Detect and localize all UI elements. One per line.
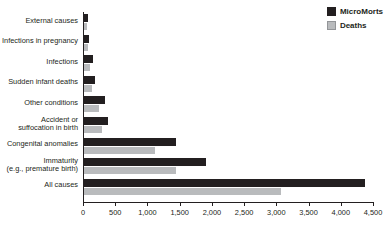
category-label: All causes: [0, 181, 78, 189]
chart-row: Congenital anomalies: [83, 136, 381, 157]
bar-deaths: [84, 44, 88, 51]
chart-row: Accident or suffocation in birth: [83, 115, 381, 136]
chart-row: External causes: [83, 12, 381, 33]
bar-group: [84, 117, 108, 133]
bar-group: [84, 55, 93, 71]
tick-label: 3,000: [267, 208, 286, 217]
tick-mark: [212, 202, 213, 206]
chart-row: Infections in pregnancy: [83, 33, 381, 54]
bar-chart: MicroMorts Deaths External causesInfecti…: [0, 0, 387, 234]
tick-mark: [341, 202, 342, 206]
category-label: Immaturity (e.g., premature birth): [0, 157, 78, 174]
bar-group: [84, 96, 105, 112]
category-label: External causes: [0, 17, 78, 25]
tick-label: 4,000: [332, 208, 351, 217]
bar-deaths: [84, 126, 102, 133]
category-label: Other conditions: [0, 99, 78, 107]
tick-label: 3,500: [299, 208, 318, 217]
bar-micromorts: [84, 117, 108, 125]
category-label: Sudden infant deaths: [0, 78, 78, 86]
category-label: Accident or suffocation in birth: [0, 116, 78, 133]
bar-group: [84, 179, 365, 195]
bar-deaths: [84, 167, 176, 174]
chart-title: [8, 0, 379, 2]
tick-mark: [115, 202, 116, 206]
category-label: Infections: [0, 58, 78, 66]
bar-micromorts: [84, 158, 206, 166]
tick-mark: [244, 202, 245, 206]
bar-group: [84, 14, 88, 30]
tick-mark: [309, 202, 310, 206]
chart-row: Immaturity (e.g., premature birth): [83, 156, 381, 177]
tick-mark: [180, 202, 181, 206]
bar-micromorts: [84, 35, 89, 43]
bar-deaths: [84, 188, 281, 195]
plot-area: External causesInfections in pregnancyIn…: [83, 12, 381, 198]
tick-label: 2,000: [203, 208, 222, 217]
bar-micromorts: [84, 96, 105, 104]
bar-micromorts: [84, 179, 365, 187]
tick-label: 500: [109, 208, 121, 217]
bar-deaths: [84, 105, 99, 112]
tick-mark: [147, 202, 148, 206]
bar-deaths: [84, 147, 155, 154]
bar-micromorts: [84, 55, 93, 63]
category-label: Infections in pregnancy: [0, 37, 78, 45]
tick-mark: [373, 202, 374, 206]
bar-micromorts: [84, 138, 176, 146]
bar-group: [84, 76, 95, 92]
chart-row: Other conditions: [83, 94, 381, 115]
chart-row: Infections: [83, 53, 381, 74]
bar-micromorts: [84, 14, 88, 22]
tick-label: 1,000: [138, 208, 157, 217]
x-axis-ticks: 05001,0001,5002,0002,5003,0003,5004,0004…: [83, 202, 381, 234]
bar-deaths: [84, 64, 90, 71]
tick-label: 4,500: [364, 208, 383, 217]
chart-row: Sudden infant deaths: [83, 74, 381, 95]
tick-mark: [83, 202, 84, 206]
chart-row: All causes: [83, 177, 381, 198]
tick-label: 1,500: [170, 208, 189, 217]
bar-group: [84, 158, 206, 174]
bar-group: [84, 138, 176, 154]
category-label: Congenital anomalies: [0, 140, 78, 148]
bar-deaths: [84, 23, 87, 30]
bar-deaths: [84, 85, 92, 92]
tick-mark: [276, 202, 277, 206]
bar-micromorts: [84, 76, 95, 84]
tick-label: 2,500: [235, 208, 254, 217]
tick-label: 0: [81, 208, 85, 217]
bar-group: [84, 35, 89, 51]
